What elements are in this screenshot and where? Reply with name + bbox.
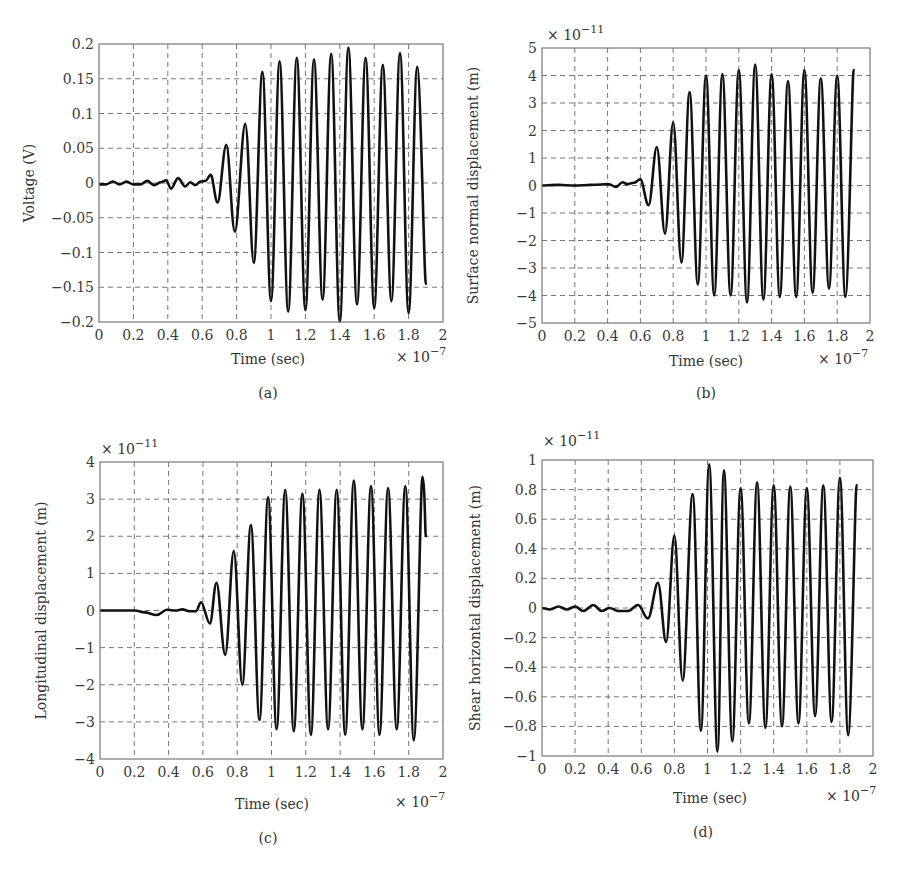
y-axis-multiplier: × 10−11 (543, 429, 600, 449)
y-tick-label: 0.6 (515, 511, 537, 527)
x-tick-label: 1.6 (363, 764, 385, 780)
panel-caption: (b) (696, 385, 716, 401)
x-tick-label: 1 (702, 328, 711, 344)
y-tick-label: 2 (528, 123, 537, 139)
x-tick-label: 0 (538, 328, 547, 344)
panel-caption: (d) (693, 824, 713, 840)
chart-panel-a: 00.20.40.60.811.21.41.61.82−0.2−0.15−0.1… (21, 36, 447, 401)
x-tick-label: 1.4 (763, 761, 785, 777)
x-tick-label: 0.4 (157, 327, 179, 343)
y-axis-multiplier: × 10−11 (547, 23, 604, 43)
y-axis-multiplier: × 10−11 (101, 437, 158, 457)
x-tick-label: 1.2 (729, 761, 751, 777)
y-tick-label: 0 (528, 178, 537, 194)
y-tick-label: −1 (516, 205, 537, 221)
y-tick-label: 0 (85, 175, 94, 191)
y-axis-label: Voltage (V) (21, 144, 37, 223)
y-tick-label: 3 (528, 95, 537, 111)
x-tick-label: 2 (869, 761, 878, 777)
figure-svg: 00.20.40.60.811.21.41.61.82−0.2−0.15−0.1… (0, 0, 902, 869)
x-tick-label: 1.2 (295, 764, 317, 780)
x-tick-label: 1.2 (294, 327, 316, 343)
x-tick-label: 0.2 (122, 327, 144, 343)
y-tick-label: −3 (74, 714, 95, 730)
y-tick-label: −0.8 (503, 718, 537, 734)
x-tick-label: 1.8 (829, 761, 851, 777)
x-axis-label: Time (sec) (669, 353, 743, 369)
y-tick-label: −3 (516, 260, 537, 276)
x-tick-label: 2 (439, 764, 448, 780)
y-tick-label: −4 (74, 751, 95, 767)
y-tick-label: −1 (516, 748, 537, 764)
x-tick-label: 2 (866, 328, 875, 344)
y-axis-label: Longitudinal displacement (m) (33, 502, 49, 720)
x-tick-label: 0.2 (123, 764, 145, 780)
x-tick-label: 1.8 (397, 327, 419, 343)
x-tick-label: 1.8 (826, 328, 848, 344)
x-tick-label: 0.8 (226, 764, 248, 780)
x-tick-label: 0.6 (630, 761, 652, 777)
panel-caption: (c) (259, 830, 278, 846)
y-tick-label: 0.2 (515, 570, 537, 586)
x-tick-label: 0.6 (629, 328, 651, 344)
data-trace-line (100, 477, 426, 741)
x-axis-multiplier: × 10−7 (818, 347, 868, 367)
x-tick-label: 0.8 (662, 328, 684, 344)
y-tick-label: −0.15 (51, 279, 94, 295)
x-tick-label: 0.8 (663, 761, 685, 777)
y-tick-label: 0.1 (72, 106, 94, 122)
x-tick-label: 1.4 (760, 328, 782, 344)
x-tick-label: 0.6 (192, 764, 214, 780)
y-tick-label: −2 (516, 233, 537, 249)
y-tick-label: 0.05 (63, 140, 94, 156)
x-axis-label: Time (sec) (235, 796, 309, 812)
x-tick-label: 0.2 (564, 761, 586, 777)
x-tick-label: 0 (538, 761, 547, 777)
y-tick-label: 5 (528, 40, 537, 56)
y-tick-label: 4 (528, 68, 537, 84)
y-tick-label: −0.1 (60, 245, 94, 261)
data-trace-line (542, 65, 854, 303)
chart-panel-c: 00.20.40.60.811.21.41.61.82−4−3−2−101234… (33, 437, 447, 846)
y-tick-label: 2 (86, 528, 95, 544)
y-tick-label: 0.2 (72, 36, 94, 52)
y-tick-label: 0 (528, 600, 537, 616)
x-tick-label: 1.6 (796, 761, 818, 777)
chart-panel-d: 00.20.40.60.811.21.41.61.82−1−0.8−0.6−0.… (467, 429, 877, 840)
y-tick-label: 1 (86, 565, 95, 581)
x-axis-label: Time (sec) (231, 351, 305, 367)
x-tick-label: 1.2 (728, 328, 750, 344)
x-tick-label: 0.8 (225, 327, 247, 343)
x-tick-label: 1.6 (363, 327, 385, 343)
y-tick-label: 3 (86, 491, 95, 507)
y-tick-label: −0.2 (60, 314, 94, 330)
y-axis-label: Surface normal displacement (m) (465, 67, 481, 304)
y-tick-label: −4 (516, 288, 537, 304)
x-axis-multiplier: × 10−7 (396, 345, 446, 365)
x-tick-label: 0.4 (157, 764, 179, 780)
x-tick-label: 1.4 (329, 764, 351, 780)
x-tick-label: 0.4 (597, 761, 619, 777)
y-tick-label: 4 (86, 454, 95, 470)
y-tick-label: 0.4 (515, 541, 537, 557)
x-axis-multiplier: × 10−7 (395, 790, 445, 810)
y-tick-label: 0.8 (515, 482, 537, 498)
data-trace-line (99, 48, 426, 323)
y-tick-label: −0.05 (51, 210, 94, 226)
y-tick-label: 0 (86, 603, 95, 619)
x-tick-label: 1 (267, 327, 276, 343)
x-tick-label: 0 (95, 327, 104, 343)
x-tick-label: 1.6 (793, 328, 815, 344)
x-tick-label: 1 (267, 764, 276, 780)
x-tick-label: 0.4 (596, 328, 618, 344)
x-tick-label: 1.4 (329, 327, 351, 343)
y-tick-label: −0.4 (503, 659, 537, 675)
y-tick-label: −0.6 (503, 689, 537, 705)
y-tick-label: 1 (528, 150, 537, 166)
x-tick-label: 0.6 (191, 327, 213, 343)
x-tick-label: 0.2 (564, 328, 586, 344)
y-tick-label: −0.2 (503, 630, 537, 646)
x-tick-label: 1 (703, 761, 712, 777)
y-tick-label: 1 (528, 452, 537, 468)
x-axis-multiplier: × 10−7 (826, 784, 876, 804)
